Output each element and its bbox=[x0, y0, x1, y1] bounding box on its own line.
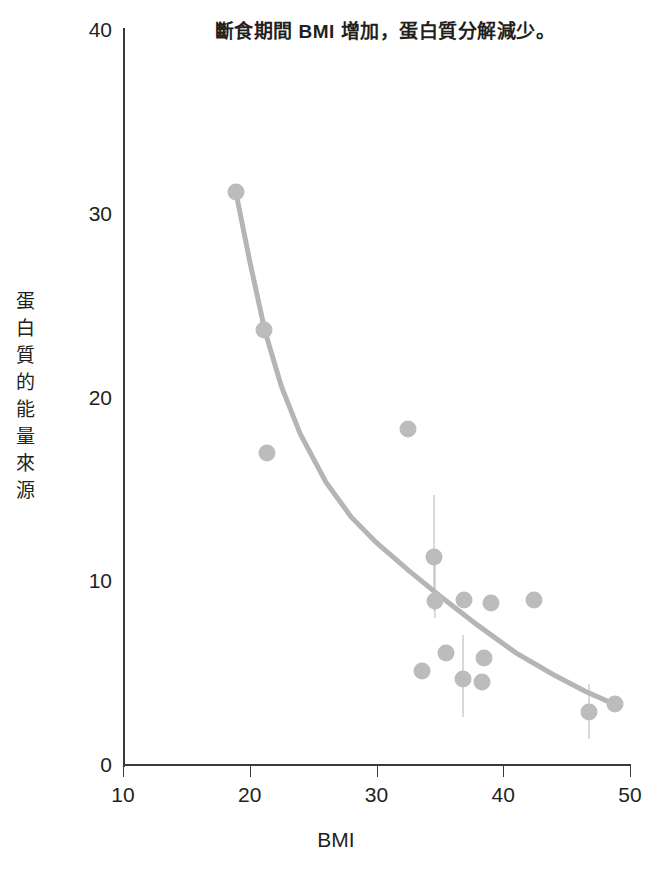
trendline bbox=[124, 30, 630, 765]
data-point bbox=[525, 591, 542, 608]
x-tick-mark-40 bbox=[503, 766, 504, 777]
data-point bbox=[455, 591, 472, 608]
y-axis-title-char: 來 bbox=[8, 450, 42, 477]
data-point bbox=[255, 321, 272, 338]
y-tick-label-20: 20 bbox=[54, 386, 112, 410]
y-axis-title-char: 能 bbox=[8, 396, 42, 423]
x-tick-label-30: 30 bbox=[365, 783, 388, 807]
data-point bbox=[482, 595, 499, 612]
y-tick-label-30: 30 bbox=[54, 202, 112, 226]
data-point bbox=[581, 703, 598, 720]
y-axis-title: 蛋白質的能量來源 bbox=[8, 288, 42, 504]
x-tick-label-10: 10 bbox=[111, 783, 134, 807]
x-tick-label-50: 50 bbox=[618, 783, 641, 807]
y-axis-tick-labels: 010203040 bbox=[40, 0, 112, 894]
data-point bbox=[606, 696, 623, 713]
y-axis-title-char: 量 bbox=[8, 423, 42, 450]
data-point bbox=[426, 593, 443, 610]
data-point bbox=[227, 183, 244, 200]
chart-figure: 斷食期間 BMI 增加，蛋白質分解減少。 010203040 102030405… bbox=[0, 0, 672, 894]
x-tick-label-40: 40 bbox=[492, 783, 515, 807]
y-axis-title-char: 源 bbox=[8, 477, 42, 504]
y-axis-title-char: 質 bbox=[8, 342, 42, 369]
y-tick-label-0: 0 bbox=[54, 753, 112, 777]
data-point bbox=[259, 444, 276, 461]
y-tick-label-10: 10 bbox=[54, 569, 112, 593]
plot-area bbox=[124, 30, 630, 765]
x-tick-mark-50 bbox=[630, 766, 631, 777]
x-tick-mark-20 bbox=[250, 766, 251, 777]
data-point bbox=[476, 650, 493, 667]
data-point bbox=[473, 674, 490, 691]
y-tick-label-40: 40 bbox=[54, 18, 112, 42]
data-point bbox=[414, 663, 431, 680]
x-tick-mark-30 bbox=[377, 766, 378, 777]
y-axis-title-char: 白 bbox=[8, 315, 42, 342]
data-point bbox=[454, 670, 471, 687]
x-axis-title: BMI bbox=[0, 828, 672, 852]
data-point bbox=[400, 420, 417, 437]
data-point bbox=[438, 644, 455, 661]
y-axis-title-char: 蛋 bbox=[8, 288, 42, 315]
x-tick-label-20: 20 bbox=[238, 783, 261, 807]
y-axis-title-char: 的 bbox=[8, 369, 42, 396]
